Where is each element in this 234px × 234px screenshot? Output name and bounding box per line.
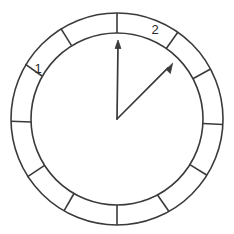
ring-tick-1 xyxy=(166,32,178,48)
hand-up-arrowhead xyxy=(115,40,121,49)
hand-diagonal-arrowhead xyxy=(166,63,172,73)
ring-label-2-group: 2 xyxy=(151,22,158,37)
hand-up-shaft xyxy=(117,46,118,119)
ring-label-2: 2 xyxy=(151,22,158,37)
segmented-dial-figure: 1 2 xyxy=(0,0,234,234)
ring-tick-4 xyxy=(190,165,207,176)
hand-up xyxy=(115,40,121,119)
ring-tick-11 xyxy=(61,28,72,45)
ring-label-1: 1 xyxy=(34,61,41,76)
ring-tick-9 xyxy=(11,121,31,122)
ring-label-1-group: 1 xyxy=(34,61,41,76)
ring-tick-5 xyxy=(157,195,168,211)
hand-diagonal-shaft xyxy=(117,68,168,119)
ring-tick-3 xyxy=(203,124,223,125)
ring-tick-2 xyxy=(193,69,210,78)
hand-diagonal xyxy=(117,63,173,119)
dial-canvas: 1 2 xyxy=(0,0,234,234)
ring-tick-7 xyxy=(64,194,74,211)
ring-tick-8 xyxy=(27,166,44,177)
